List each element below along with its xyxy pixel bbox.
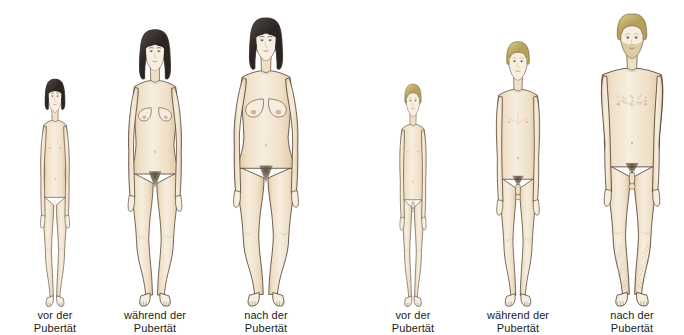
caption-female-pre: vor derPubertät — [34, 309, 76, 335]
caption-male-post: nach derPubertät — [610, 309, 654, 335]
figure-male-during: während derPubertät — [478, 38, 559, 335]
caption-line-2: Pubertät — [124, 322, 186, 335]
caption-male-pre: vor derPubertät — [392, 309, 434, 335]
caption-line-1: vor der — [392, 309, 434, 322]
human-body-figure-male-during — [478, 38, 559, 308]
caption-line-2: Pubertät — [487, 322, 549, 335]
caption-line-2: Pubertät — [392, 322, 434, 335]
figure-male-pre: vor derPubertät — [384, 81, 443, 335]
caption-female-during: während derPubertät — [124, 309, 186, 335]
puberty-development-illustration: vor derPubertät — [0, 0, 684, 335]
human-body-figure-female-during — [112, 27, 198, 308]
caption-line-1: während der — [124, 309, 186, 322]
figure-female-pre: vor derPubertät — [25, 76, 85, 335]
human-body-figure-female-pre — [25, 76, 85, 308]
caption-line-1: nach der — [610, 309, 654, 322]
figure-male-post: nach derPubertät — [585, 12, 680, 335]
caption-line-2: Pubertät — [244, 322, 288, 335]
caption-line-2: Pubertät — [34, 322, 76, 335]
caption-line-1: während der — [487, 309, 549, 322]
caption-male-during: während derPubertät — [487, 309, 549, 335]
human-body-figure-male-pre — [384, 81, 443, 308]
caption-line-1: nach der — [244, 309, 288, 322]
human-body-figure-male-post — [585, 12, 680, 308]
caption-female-post: nach derPubertät — [244, 309, 288, 335]
caption-line-2: Pubertät — [610, 322, 654, 335]
caption-line-1: vor der — [34, 309, 76, 322]
figure-female-during: während derPubertät — [112, 27, 198, 335]
figure-female-post: nach derPubertät — [220, 15, 312, 335]
human-body-figure-female-post — [220, 15, 312, 308]
